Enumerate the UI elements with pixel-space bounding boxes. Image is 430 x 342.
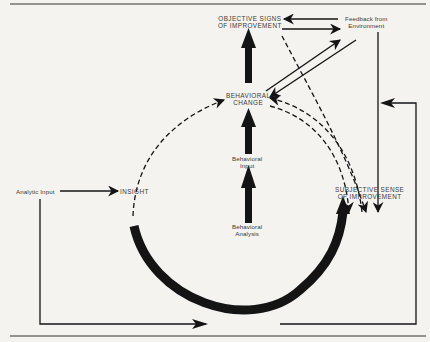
change-to-objective-arrow — [241, 28, 256, 83]
analytic-bottom-loop — [40, 199, 206, 324]
change-to-feedback-arrow — [266, 40, 340, 91]
objective-signs-label: OBJECTIVE SIGNS OF IMPROVEMENT — [218, 15, 282, 30]
feedback-from-environment-label: Feedback from Environment — [345, 15, 388, 30]
diagram-canvas — [0, 0, 430, 342]
behavioral-analysis-label: Behavioral Analysis — [232, 223, 262, 238]
subjective-sense-label: SUBJECTIVE SENSE OF IMPROVEMENT — [335, 186, 404, 201]
analytic-input-label: Analytic Input — [16, 188, 55, 195]
behavioral-analysis-to-input-arrow — [241, 165, 256, 223]
behavioral-input-label: Behavioral Input — [232, 155, 262, 170]
behavioral-change-label: BEHAVIORAL CHANGE — [226, 92, 270, 107]
insight-label: INSIGHT — [120, 188, 149, 195]
feedback-to-change-arrow — [270, 40, 356, 97]
insight-to-behavior-dashed-arc — [133, 100, 224, 216]
behavioral-input-to-change-arrow — [241, 108, 256, 154]
